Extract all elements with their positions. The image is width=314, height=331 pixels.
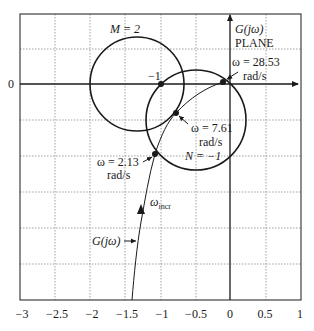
- x-tick: −2.5: [46, 307, 68, 321]
- omega-28-leader: [227, 72, 238, 79]
- x-tick-labels: −3 −2.5 −2 −1.5 −1 −0.5 0 0.5 1: [16, 307, 303, 321]
- x-tick: 0.5: [258, 307, 273, 321]
- x-tick: −0.5: [185, 307, 207, 321]
- m-circle-label: M = 2: [109, 22, 140, 36]
- nyquist-diagram: G(jω) PLANE ω = 28.53 rad/s ω = 7.61 rad…: [0, 0, 314, 331]
- y-tick-zero: 0: [8, 77, 14, 91]
- x-tick: −3: [16, 307, 29, 321]
- x-tick: 1: [297, 307, 303, 321]
- x-tick: 0: [227, 307, 233, 321]
- omega-7-dot: [173, 110, 179, 116]
- omega-28-unit: rad/s: [243, 69, 267, 83]
- plane-label-2: PLANE: [235, 36, 274, 50]
- curve-label: G(jω): [92, 234, 120, 248]
- x-tick: −2: [86, 307, 99, 321]
- x-tick: −1: [156, 307, 169, 321]
- plane-label: G(jω): [235, 22, 263, 36]
- x-tick: −1.5: [116, 307, 138, 321]
- n-circle-label: N = −1: [184, 149, 221, 163]
- omega-2-leader: [143, 157, 152, 162]
- omega-28-label: ω = 28.53: [232, 55, 280, 69]
- omega-7-unit: rad/s: [199, 135, 223, 149]
- omega-2-unit: rad/s: [107, 168, 131, 182]
- omega-2-dot: [152, 151, 158, 157]
- omega-2-label: ω = 2.13: [97, 155, 139, 169]
- omega-7-label: ω = 7.61: [191, 121, 233, 135]
- omega-28-dot: [220, 79, 226, 85]
- critical-point-label: −1: [148, 69, 161, 83]
